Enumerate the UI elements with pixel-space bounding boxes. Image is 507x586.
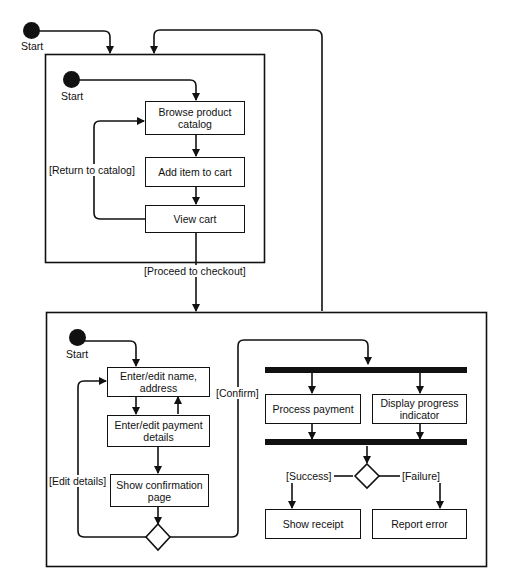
activity-diagram-lines (0, 0, 507, 586)
activity-enter-payment: Enter/edit payment details (107, 415, 210, 447)
start-label-outer: Start (21, 40, 43, 52)
guard-edit-details: [Edit details] (49, 475, 106, 487)
join-bar (265, 439, 467, 445)
activity-add-item: Add item to cart (145, 157, 245, 187)
activity-label: Show receipt (283, 518, 344, 530)
activity-label: Enter/edit name, address (120, 370, 197, 394)
start-label-checkout: Start (66, 348, 88, 360)
activity-label: View cart (174, 213, 217, 225)
activity-report-error: Report error (372, 509, 467, 539)
guard-confirm: [Confirm] (216, 387, 259, 399)
activity-label: Enter/edit payment details (114, 419, 202, 443)
guard-proceed-to-checkout: [Proceed to checkout] (144, 265, 246, 277)
decision-diamond-result (355, 464, 379, 488)
guard-return-to-catalog: [Return to catalog] (49, 164, 135, 176)
start-node-checkout (69, 329, 86, 346)
activity-view-cart: View cart (145, 205, 245, 233)
activity-label: Add item to cart (158, 166, 232, 178)
activity-show-confirmation: Show confirmation page (110, 474, 209, 507)
activity-label: Show confirmation page (116, 479, 202, 503)
activity-process-payment: Process payment (265, 394, 361, 424)
start-node-outer (23, 22, 40, 39)
activity-browse-catalog: Browse product catalog (145, 101, 245, 135)
start-label-browse: Start (61, 90, 83, 102)
activity-label: Browse product catalog (159, 106, 232, 130)
guard-failure: [Failure] (402, 470, 440, 482)
fork-bar (265, 367, 467, 373)
activity-display-progress: Display progress indicator (372, 394, 467, 424)
decision-diamond-edit (146, 524, 170, 550)
activity-enter-name-address: Enter/edit name, address (107, 367, 210, 397)
guard-success: [Success] (286, 470, 332, 482)
activity-label: Process payment (272, 403, 353, 415)
start-node-browse (63, 71, 80, 88)
activity-show-receipt: Show receipt (265, 509, 361, 539)
activity-label: Report error (391, 518, 448, 530)
activity-label: Display progress indicator (380, 397, 458, 421)
